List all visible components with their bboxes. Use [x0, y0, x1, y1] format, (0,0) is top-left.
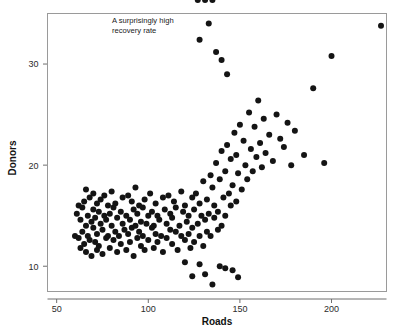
data-point — [149, 209, 155, 215]
data-point — [189, 225, 195, 231]
data-point — [85, 213, 91, 219]
data-point — [182, 203, 188, 209]
data-point — [140, 205, 146, 211]
data-point — [125, 192, 131, 198]
data-point — [158, 233, 164, 239]
data-point — [162, 207, 168, 213]
data-point — [76, 235, 82, 241]
data-point — [74, 211, 80, 217]
data-point — [98, 221, 104, 227]
data-point — [81, 199, 87, 205]
annotation-line-1: A surprisingly high — [112, 16, 174, 25]
data-point — [224, 142, 230, 148]
annotation-line-2: recovery rate — [112, 26, 156, 35]
data-point — [83, 186, 89, 192]
chart-canvas: 50100150200 102030 Roads Donors A surpri… — [0, 0, 408, 336]
data-point — [171, 199, 177, 205]
data-point — [197, 37, 203, 43]
data-point — [219, 148, 225, 154]
data-point — [193, 190, 199, 196]
data-point — [213, 49, 219, 55]
data-point — [259, 164, 265, 170]
data-point — [233, 152, 239, 158]
data-point — [142, 247, 148, 253]
data-point — [209, 281, 215, 287]
data-point — [123, 247, 129, 253]
data-point — [99, 227, 105, 233]
data-point — [202, 217, 208, 223]
data-point — [209, 184, 215, 190]
data-point — [83, 223, 89, 229]
data-point — [219, 223, 225, 229]
data-point — [77, 217, 83, 223]
data-point — [127, 217, 133, 223]
data-point — [224, 71, 230, 77]
data-point — [134, 235, 140, 241]
data-point — [175, 247, 181, 253]
data-point — [189, 273, 195, 279]
data-point — [120, 194, 126, 200]
data-point — [83, 249, 89, 255]
data-point — [274, 112, 280, 118]
data-point — [109, 188, 115, 194]
data-point — [87, 237, 93, 243]
x-tick-label: 100 — [141, 304, 156, 314]
data-point — [109, 223, 115, 229]
data-point — [147, 190, 153, 196]
data-point — [101, 192, 107, 198]
data-point — [99, 251, 105, 257]
data-point — [112, 201, 118, 207]
data-point — [292, 128, 298, 134]
data-point — [204, 197, 210, 203]
data-point — [213, 160, 219, 166]
data-point — [94, 231, 100, 237]
data-point — [145, 237, 151, 243]
data-point — [127, 239, 133, 245]
data-point — [107, 245, 113, 251]
data-point — [266, 132, 272, 138]
data-point — [160, 194, 166, 200]
data-point — [248, 146, 254, 152]
data-point — [206, 211, 212, 217]
data-point — [105, 203, 111, 209]
data-point — [241, 138, 247, 144]
data-point — [96, 243, 102, 249]
data-point — [217, 263, 223, 269]
data-point — [211, 203, 217, 209]
data-point — [180, 209, 186, 215]
data-point — [277, 136, 283, 142]
data-point — [195, 221, 201, 227]
data-point — [118, 209, 124, 215]
data-point — [79, 205, 85, 211]
data-point — [88, 253, 94, 259]
data-point — [96, 209, 102, 215]
data-point — [105, 233, 111, 239]
data-point — [255, 97, 261, 103]
data-point — [281, 144, 287, 150]
data-point — [153, 201, 159, 207]
data-point — [253, 154, 259, 160]
data-point — [211, 215, 217, 221]
data-point — [222, 265, 228, 271]
data-point — [219, 57, 225, 63]
data-point — [244, 176, 250, 182]
data-point — [206, 21, 212, 27]
data-point — [197, 261, 203, 267]
data-point — [186, 213, 192, 219]
x-axis-title: Roads — [202, 316, 233, 327]
data-point — [191, 207, 197, 213]
data-point — [208, 233, 214, 239]
data-point — [110, 237, 116, 243]
data-point — [233, 199, 239, 205]
data-point — [164, 221, 170, 227]
data-point — [143, 221, 149, 227]
y-tick-label: 20 — [28, 161, 38, 171]
data-point — [167, 227, 173, 233]
data-point — [164, 235, 170, 241]
data-point — [208, 172, 214, 178]
data-point — [310, 85, 316, 91]
data-point — [246, 110, 252, 116]
data-point — [237, 122, 243, 128]
data-point — [239, 186, 245, 192]
data-point — [220, 194, 226, 200]
